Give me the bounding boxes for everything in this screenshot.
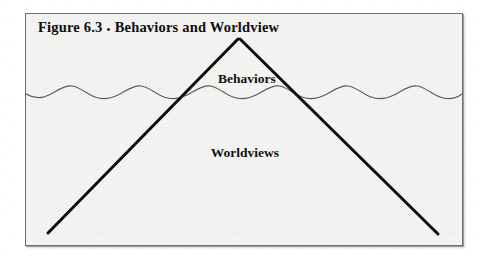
waterline-wave-path: [26, 86, 462, 99]
figure-frame: Figure 6.3•Behaviors and Worldview Behav…: [25, 13, 463, 246]
label-behaviors: Behaviors: [32, 71, 462, 87]
figure-root: Figure 6.3•Behaviors and Worldview Behav…: [0, 0, 484, 257]
figure-caption: Figure 6.3•Behaviors and Worldview: [38, 19, 279, 36]
bullet-separator-icon: •: [103, 23, 115, 35]
triangle-left-leg: [48, 39, 238, 233]
label-worldviews: Worldviews: [28, 145, 462, 161]
triangle-right-leg: [240, 39, 438, 234]
figure-number: Figure 6.3: [38, 19, 103, 35]
figure-title-text: Behaviors and Worldview: [115, 19, 280, 35]
iceberg-diagram: [26, 14, 462, 245]
